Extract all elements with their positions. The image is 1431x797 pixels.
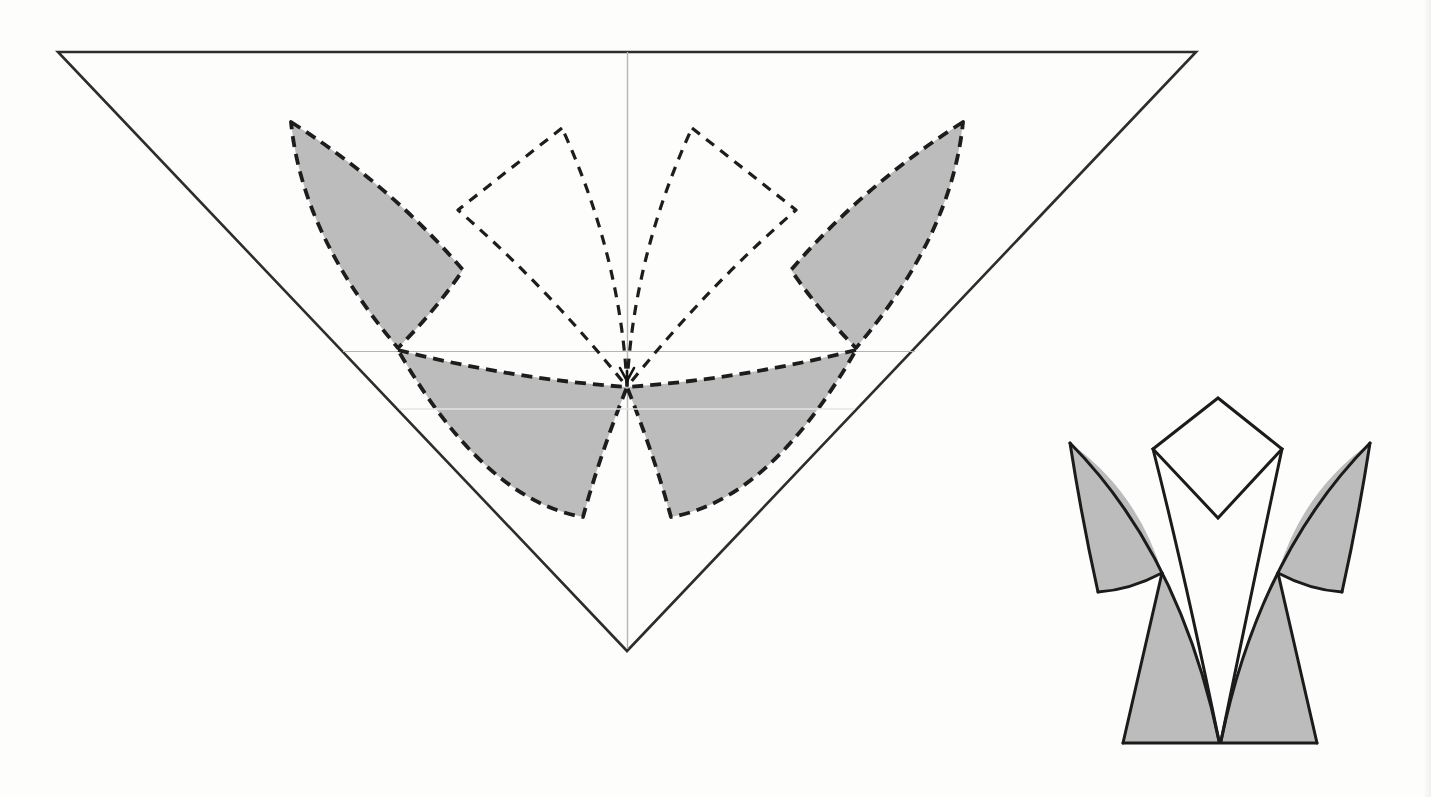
folded-model [1070, 398, 1370, 743]
page [0, 0, 1431, 797]
petal-outer-left [291, 122, 463, 348]
petal-outer-right [791, 122, 963, 348]
diamond-head [1153, 398, 1282, 518]
crease-pattern [58, 52, 1196, 651]
petal-inner-right [627, 128, 796, 387]
leg-right-fill [1221, 573, 1317, 743]
petal-lower-right [627, 350, 856, 517]
petal-lower-left [398, 350, 627, 517]
diagram-canvas [0, 0, 1431, 797]
leg-left-fill [1123, 573, 1219, 743]
petal-inner-left [458, 128, 627, 387]
